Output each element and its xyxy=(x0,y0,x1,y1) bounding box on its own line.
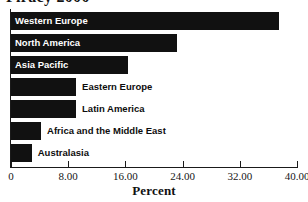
x-axis-tick xyxy=(240,161,241,168)
bar-category-label: Australasia xyxy=(38,144,89,162)
bar-row: Western Europe xyxy=(11,12,297,30)
x-axis-tick-label: 8.00 xyxy=(59,170,78,182)
bar-row: Australasia xyxy=(11,144,297,162)
plot-area: 08.0016.0024.0032.0040.00 Western Europe… xyxy=(0,0,308,202)
x-axis-tick-label: 16.00 xyxy=(113,170,138,182)
bar xyxy=(11,144,32,162)
x-axis-title: Percent xyxy=(0,183,308,199)
bar-category-label: Asia Pacific xyxy=(15,56,68,74)
bar-row: Asia Pacific xyxy=(11,56,297,74)
bar-category-label: Latin America xyxy=(82,100,144,118)
bar-row: Latin America xyxy=(11,100,297,118)
bar-row: North America xyxy=(11,34,297,52)
bar xyxy=(11,122,41,140)
bar-row: Eastern Europe xyxy=(11,78,297,96)
x-axis-tick-label: 0 xyxy=(8,170,14,182)
bar xyxy=(11,78,76,96)
bar-category-label: Western Europe xyxy=(15,12,88,30)
x-axis-tick-label: 40.00 xyxy=(285,170,308,182)
value-axis-line xyxy=(10,167,298,168)
x-axis-tick xyxy=(68,161,69,168)
x-axis-tick xyxy=(297,161,298,168)
bar-row: Africa and the Middle East xyxy=(11,122,297,140)
bar-category-label: Africa and the Middle East xyxy=(47,122,166,140)
x-axis-tick-label: 24.00 xyxy=(170,170,195,182)
x-axis-tick-label: 32.00 xyxy=(227,170,252,182)
x-axis-tick xyxy=(125,161,126,168)
bar-category-label: Eastern Europe xyxy=(82,78,152,96)
bar-category-label: North America xyxy=(15,34,80,52)
x-axis-tick xyxy=(11,161,12,168)
x-axis-tick xyxy=(183,161,184,168)
bar-chart-figure: Piracy 2000 08.0016.0024.0032.0040.00 We… xyxy=(0,0,308,202)
bar xyxy=(11,100,76,118)
